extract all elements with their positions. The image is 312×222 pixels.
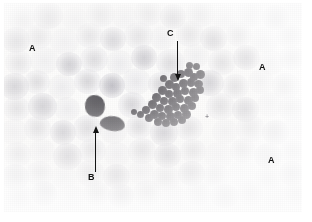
- mark-field-cross: +: [205, 113, 209, 120]
- arrow-b-shaft: [95, 132, 96, 172]
- annotation-label-a2: A: [259, 63, 266, 72]
- annotation-label-c: C: [167, 29, 174, 38]
- arrow-c-head: [175, 74, 181, 81]
- annotation-label-a1: A: [29, 44, 36, 53]
- annotation-overlay: AAABC+: [4, 3, 302, 212]
- arrow-c-shaft: [177, 41, 178, 75]
- blood-smear-image: AAABC+: [4, 3, 302, 212]
- annotation-label-a3: A: [268, 156, 275, 165]
- arrow-b-head: [93, 126, 99, 133]
- annotation-label-b: B: [88, 173, 95, 182]
- micrograph-figure: AAABC+: [0, 0, 312, 222]
